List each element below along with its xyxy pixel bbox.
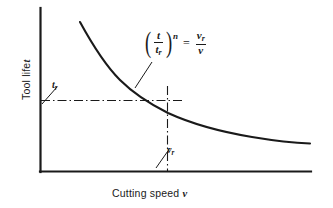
lhs-numerator: t bbox=[156, 30, 161, 42]
y-axis-label-symbol: t bbox=[21, 59, 32, 62]
tool-life-chart-figure: Tool lifet Cutting speed v tr vr ( t tr … bbox=[0, 0, 333, 208]
annotation-vr: vr bbox=[167, 145, 174, 157]
rhs-denominator: v bbox=[197, 45, 204, 57]
annotation-vr-subscript: r bbox=[171, 149, 174, 157]
y-axis-label-text: Tool life bbox=[20, 63, 32, 100]
right-paren: ) bbox=[166, 30, 172, 53]
x-axis-label-text: Cutting speed bbox=[112, 187, 179, 199]
lhs-denominator: tr bbox=[154, 43, 162, 57]
rhs-numerator: vr bbox=[196, 30, 206, 44]
lhs-denominator-subscript: r bbox=[158, 48, 161, 57]
exponent-n: n bbox=[173, 31, 178, 41]
x-axis-label-symbol: v bbox=[183, 188, 188, 199]
lhs-fraction: t tr bbox=[153, 30, 164, 57]
annotation-tr-subscript: r bbox=[55, 84, 58, 92]
equals-sign: = bbox=[183, 36, 190, 51]
equation-leader-line bbox=[135, 62, 152, 88]
x-axis-label: Cutting speed v bbox=[112, 188, 187, 200]
equation-annotation: ( t tr ) n = vr v bbox=[143, 30, 207, 57]
rhs-fraction: vr v bbox=[195, 30, 207, 57]
rhs-numerator-subscript: r bbox=[202, 34, 205, 43]
left-paren: ( bbox=[145, 30, 151, 53]
equation-lhs: ( t tr ) n bbox=[143, 30, 178, 57]
y-axis-label: Tool lifet bbox=[21, 31, 33, 129]
annotation-tr: tr bbox=[52, 80, 58, 92]
